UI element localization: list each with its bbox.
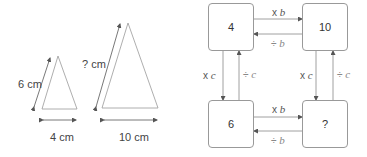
op-symbol: ÷	[271, 38, 277, 49]
large-triangle	[96, 23, 158, 120]
op-symbol: ÷	[337, 69, 343, 80]
op-symbol: x	[272, 104, 277, 115]
large-triangle-base-label: 10 cm	[119, 132, 149, 143]
op-right-up: ÷ c	[337, 69, 350, 80]
op-symbol: x	[300, 70, 305, 81]
op-variable: c	[251, 68, 256, 80]
box-top-left-value: 4	[228, 21, 234, 33]
op-symbol: x	[203, 70, 208, 81]
op-variable: b	[279, 134, 285, 146]
op-bottom-forward: x b	[272, 104, 285, 115]
op-right-down: x c	[300, 70, 313, 81]
small-triangle-base-label: 4 cm	[50, 132, 74, 143]
box-top-right: 10	[302, 3, 348, 51]
op-symbol: x	[272, 7, 277, 18]
op-variable: b	[280, 6, 286, 18]
box-bottom-left: 6	[208, 100, 254, 148]
op-variable: b	[280, 103, 286, 115]
op-bottom-backward: ÷ b	[271, 135, 285, 146]
small-triangle-side-label: 6 cm	[18, 79, 42, 90]
op-symbol: ÷	[243, 69, 249, 80]
op-top-forward: x b	[272, 7, 285, 18]
op-variable: c	[211, 69, 216, 81]
box-top-right-value: 10	[319, 21, 331, 33]
op-left-down: x c	[203, 70, 216, 81]
box-top-left: 4	[208, 3, 254, 51]
box-bottom-left-value: 6	[228, 118, 234, 130]
op-variable: c	[345, 68, 350, 80]
op-symbol: ÷	[271, 135, 277, 146]
op-variable: c	[308, 69, 313, 81]
large-triangle-side-label: ? cm	[82, 59, 106, 70]
box-bottom-right: ?	[302, 100, 348, 148]
op-left-up: ÷ c	[243, 69, 256, 80]
op-top-backward: ÷ b	[271, 38, 285, 49]
box-bottom-right-value: ?	[322, 118, 328, 130]
op-variable: b	[279, 37, 285, 49]
